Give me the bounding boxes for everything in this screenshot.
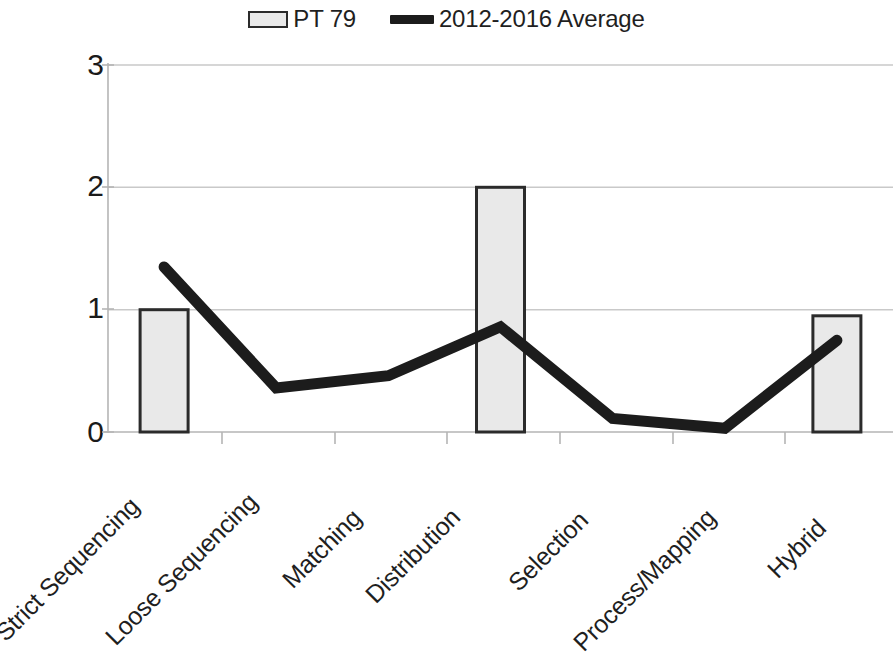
bar-distribution	[477, 187, 525, 432]
x-label-distribution: Distribution	[359, 503, 465, 609]
x-label-hybrid: Hybrid	[761, 514, 831, 584]
x-axis-labels: Strict Sequencing Loose Sequencing Match…	[0, 440, 893, 632]
bar-strict-sequencing	[140, 310, 188, 432]
x-label-matching: Matching	[276, 503, 367, 594]
x-label-selection: Selection	[502, 506, 593, 597]
bar-hybrid	[813, 316, 861, 432]
